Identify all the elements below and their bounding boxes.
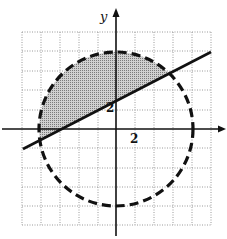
y-tick-label: 2 (106, 101, 114, 115)
x-tick-label: 2 (130, 132, 138, 146)
graph: y 2 2 (0, 0, 227, 239)
x-axis-arrow-icon (218, 126, 226, 133)
y-axis-label: y (99, 9, 108, 24)
y-axis-arrow-icon (113, 8, 120, 17)
axes (2, 14, 222, 236)
